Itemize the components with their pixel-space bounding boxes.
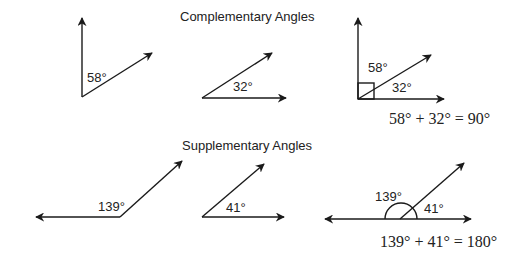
combined-139-label: 139° — [375, 190, 402, 203]
combined-32-label: 32° — [392, 81, 412, 94]
angle-58-figure — [82, 18, 152, 97]
angle-arc — [385, 203, 417, 219]
complementary-equation: 58° + 32° = 90° — [389, 111, 490, 127]
combined-41-label: 41° — [424, 202, 444, 215]
supplementary-equation: 139° + 41° = 180° — [380, 234, 497, 250]
angle-41-label: 41° — [226, 201, 246, 214]
combined-58-label: 58° — [368, 61, 388, 74]
angle-drawings — [0, 0, 513, 265]
complementary-title: Complementary Angles — [180, 10, 314, 23]
angle-139-label: 139° — [98, 200, 125, 213]
angle-32-label: 32° — [233, 80, 253, 93]
angle-58-label: 58° — [87, 71, 107, 84]
angles-diagram: Complementary Angles 58° 32° 58° 32° 58°… — [0, 0, 513, 265]
supplementary-title: Supplementary Angles — [182, 139, 312, 152]
